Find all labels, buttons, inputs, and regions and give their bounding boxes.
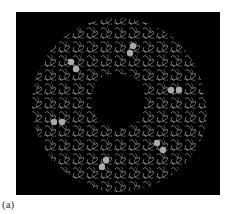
protein-structure-image	[16, 12, 220, 195]
hexamer-ribbon-trace	[16, 12, 220, 195]
figure-panel-label: (a)	[2, 198, 14, 210]
